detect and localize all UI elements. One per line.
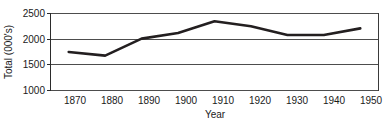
x-tick-label-1880: 1880 [101,95,124,106]
y-axis-title: Total (000's) [3,25,14,79]
line-chart: 2500 2000 1500 1000 Total (000's) 1870 1… [0,0,391,121]
x-tick-label-1940: 1940 [323,95,346,106]
x-tick-label-1910: 1910 [212,95,235,106]
y-tick-label-1500: 1500 [23,59,46,70]
x-tick-label-1930: 1930 [286,95,309,106]
x-tick-label-1890: 1890 [138,95,161,106]
x-tick-label-1950: 1950 [360,95,383,106]
y-tick-label-1000: 1000 [23,85,46,96]
y-tick-label-2500: 2500 [23,8,46,19]
y-tick-label-2000: 2000 [23,34,46,45]
x-tick-label-1870: 1870 [64,95,87,106]
x-axis-title: Year [205,109,226,120]
x-axis-tick-labels: 1870 1880 1890 1900 1910 1920 1930 1940 … [64,95,383,106]
chart-canvas: 2500 2000 1500 1000 Total (000's) 1870 1… [0,0,391,121]
x-tick-label-1900: 1900 [175,95,198,106]
x-tick-label-1920: 1920 [249,95,272,106]
